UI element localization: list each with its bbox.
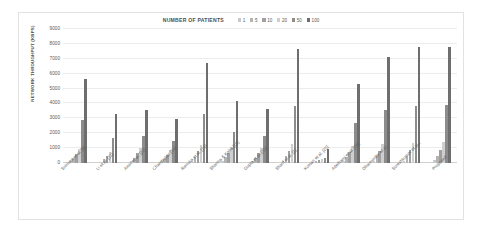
y-tick-label: 8000 [50, 40, 60, 45]
bar[interactable] [357, 84, 360, 163]
bar[interactable] [448, 47, 451, 163]
legend-swatch-icon [307, 18, 310, 21]
bar-group [306, 29, 336, 163]
bar-group [124, 29, 154, 163]
x-axis-label-cell: Sharif et al. [1] [275, 165, 305, 219]
legend-swatch-icon [262, 18, 265, 21]
bar-group [427, 29, 457, 163]
bar[interactable] [327, 149, 330, 163]
legend-label: 10 [267, 18, 272, 23]
x-axis-label-cell: Sharma & Kalra [16] [215, 165, 245, 219]
legend-swatch-icon [250, 18, 253, 21]
x-axis-label-cell: Sureshkumar et al... [396, 165, 426, 219]
x-axis-label-cell: Proposed [427, 165, 457, 219]
plot-area: 0100020003000400050006000700080009000 [63, 29, 457, 163]
bar-group [93, 29, 123, 163]
bar[interactable] [297, 49, 300, 163]
x-axis-label-cell: Chandrakar [14] [154, 165, 184, 219]
bar[interactable] [115, 114, 118, 163]
bar[interactable] [236, 101, 239, 163]
legend-entry[interactable]: 50 [292, 18, 302, 23]
bar[interactable] [175, 119, 178, 163]
bar-group [366, 29, 396, 163]
y-tick-label: 9000 [50, 26, 60, 31]
x-axis-label-cell: Renuka et al. [16] [184, 165, 214, 219]
y-tick-label: 2000 [50, 130, 60, 135]
x-axis-label-cell: Gupta et al. [19] [245, 165, 275, 219]
legend-label: 1 [243, 18, 246, 23]
bar-group [336, 29, 366, 163]
x-axis-label-cell: Kumari et al. [25] [306, 165, 336, 219]
bar-groups [63, 29, 457, 163]
x-axis-labels: Srinivas et al. [8]Li et al. [11]Amin et… [63, 165, 457, 219]
legend-label: 5 [255, 18, 258, 23]
legend-items: 15102050100 [238, 18, 319, 23]
x-axis-label-cell: Amin et al. [22] [124, 165, 154, 219]
y-tick-label: 5000 [50, 85, 60, 90]
legend-entry[interactable]: 100 [307, 18, 319, 23]
legend-label: 20 [282, 18, 287, 23]
legend-entry[interactable]: 20 [277, 18, 287, 23]
legend-swatch-icon [238, 18, 241, 21]
y-tick-label: 0 [57, 160, 60, 165]
legend-title: NUMBER OF PATIENTS [163, 17, 224, 23]
legend-entry[interactable]: 5 [250, 18, 257, 23]
y-tick-label: 6000 [50, 70, 60, 75]
y-axis-title: NETWORK THROUGHPUT (KBPS) [30, 5, 35, 123]
legend-entry[interactable]: 1 [238, 18, 245, 23]
legend-label: 50 [297, 18, 302, 23]
y-tick-label: 4000 [50, 100, 60, 105]
legend-entry[interactable]: 10 [262, 18, 272, 23]
y-tick-label: 3000 [50, 115, 60, 120]
legend-label: 100 [312, 18, 320, 23]
y-tick-label: 7000 [50, 55, 60, 60]
bar[interactable] [266, 109, 269, 163]
chart-container: NUMBER OF PATIENTS 15102050100 NETWORK T… [18, 12, 464, 220]
bar-group [63, 29, 93, 163]
bar-group [275, 29, 305, 163]
bar[interactable] [84, 79, 87, 163]
legend-swatch-icon [277, 18, 280, 21]
chart-legend: NUMBER OF PATIENTS 15102050100 [19, 17, 463, 23]
x-axis-label-cell: Srinivas et al. [8] [63, 165, 93, 219]
bar[interactable] [145, 110, 148, 163]
bar-group [245, 29, 275, 163]
bar-group [184, 29, 214, 163]
x-axis-label-cell: Li et al. [11] [93, 165, 123, 219]
x-axis-label-cell: Dharminder et al... [366, 165, 396, 219]
x-axis-label-cell: Adelhami et al. [26] [336, 165, 366, 219]
legend-swatch-icon [292, 18, 295, 21]
bar-group [154, 29, 184, 163]
y-tick-label: 1000 [50, 145, 60, 150]
